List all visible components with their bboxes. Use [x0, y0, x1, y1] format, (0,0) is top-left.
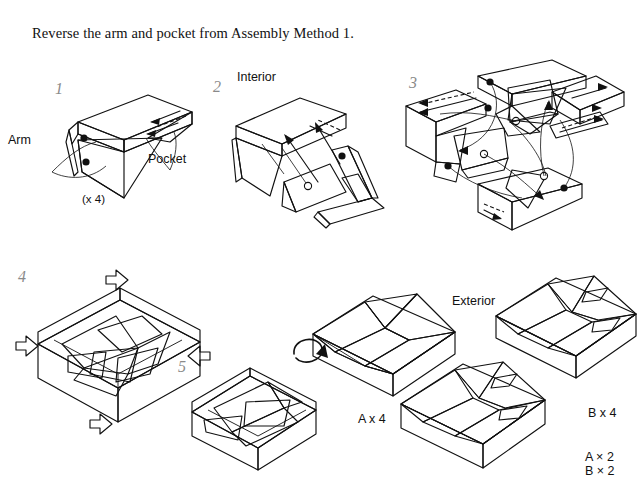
- label-b-times-4: B x 4: [588, 406, 617, 420]
- step-number-2: 2: [213, 78, 221, 96]
- label-interior: Interior: [237, 70, 276, 84]
- push-arrow-icon: [16, 336, 38, 356]
- label-a-times-2: A × 2: [585, 450, 614, 464]
- filled-dot-marker: [80, 134, 87, 141]
- open-dot-marker: [304, 182, 311, 189]
- label-b-times-2: B × 2: [585, 464, 615, 478]
- label-pocket: Pocket: [148, 152, 186, 166]
- assembly-diagram-page: Reverse the arm and pocket from Assembly…: [0, 0, 643, 484]
- label-quantity-step-1: (x 4): [82, 193, 105, 205]
- filled-dot-marker: [82, 158, 89, 165]
- figure-step-1: [20, 80, 220, 210]
- figure-step-2: [222, 86, 407, 231]
- figure-step-3: [400, 58, 643, 246]
- filled-dot-marker: [338, 152, 345, 159]
- page-title: Reverse the arm and pocket from Assembly…: [32, 25, 354, 42]
- label-arm: Arm: [8, 133, 31, 147]
- label-exterior: Exterior: [452, 294, 495, 308]
- label-a-times-4: A x 4: [358, 412, 386, 426]
- figure-assembly-mixed: [395, 352, 555, 477]
- push-arrow-icon: [106, 270, 128, 290]
